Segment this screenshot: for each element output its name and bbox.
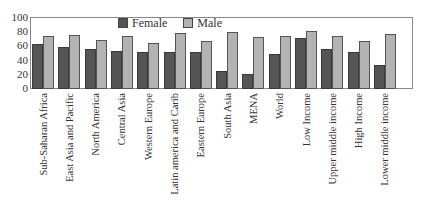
x-tick-label: South Asia (221, 93, 235, 203)
bar-female (137, 52, 148, 89)
legend-swatch-female (118, 18, 128, 28)
x-tick-label: Latin america and Carib (168, 93, 182, 203)
x-tick-label: North America (89, 93, 103, 203)
y-tick-0: 0 (4, 83, 28, 94)
x-tick-label: Sub-Saharan Africa (37, 93, 51, 203)
bar-male (148, 43, 159, 89)
bar-male (385, 34, 396, 89)
y-tick-20: 20 (4, 69, 28, 80)
bar-female (58, 47, 69, 89)
x-tick-label: Central Asia (115, 93, 129, 203)
bar-male (332, 36, 343, 89)
bar-male (280, 36, 291, 89)
legend-label-male: Male (197, 16, 222, 31)
bar-female (190, 52, 201, 89)
bar-male (43, 36, 54, 89)
bar-female (374, 65, 385, 89)
bar-male (227, 32, 238, 89)
x-tick-label: Eastern Europe (194, 93, 208, 203)
x-tick-label: MENA (247, 93, 261, 203)
bar-male (306, 31, 317, 89)
x-tick-label: East Asia and Pacific (63, 93, 77, 203)
bar-male (253, 37, 264, 89)
bar-group (57, 17, 82, 89)
bar-female (216, 71, 227, 89)
bar-male (175, 33, 186, 89)
bar-female (269, 54, 280, 89)
x-tick-label: Lower middle income (378, 93, 392, 203)
bar-female (348, 52, 359, 89)
x-tick-label: Low Income (300, 93, 314, 203)
bar-group (268, 17, 293, 89)
x-tick-label: Western Europe (142, 93, 156, 203)
x-tick-label: High Income (352, 93, 366, 203)
bar-male (201, 41, 212, 89)
y-tick-100: 100 (4, 12, 28, 23)
legend: Female Male (118, 16, 222, 30)
y-tick-60: 60 (4, 40, 28, 51)
bar-group (373, 17, 398, 89)
bar-male (69, 35, 80, 89)
bar-female (111, 51, 122, 89)
bar-female (242, 74, 253, 89)
bar-female (295, 38, 306, 89)
bar-group (294, 17, 319, 89)
bar-female (32, 44, 43, 89)
bar-group (241, 17, 266, 89)
bar-female (164, 52, 175, 89)
bar-male (359, 41, 370, 89)
bar-group (320, 17, 345, 89)
y-tick-40: 40 (4, 55, 28, 66)
x-tick-label: Upper middle income (326, 93, 340, 203)
bar-female (85, 49, 96, 89)
bar-group (31, 17, 56, 89)
x-tick-label: World (273, 93, 287, 203)
bar-group (84, 17, 109, 89)
bar-group (347, 17, 372, 89)
legend-label-female: Female (132, 16, 167, 31)
bar-male (122, 36, 133, 89)
legend-swatch-male (183, 18, 193, 28)
bar-male (96, 40, 107, 89)
y-tick-80: 80 (4, 26, 28, 37)
bar-female (321, 49, 332, 89)
